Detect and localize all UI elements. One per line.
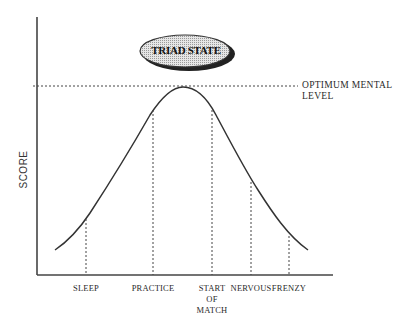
x-label-practice: PRACTICE (128, 283, 178, 294)
optimum-mental-level-label: OPTIMUM MENTAL LEVEL (302, 80, 392, 102)
optimum-label-line1: OPTIMUM MENTAL (302, 80, 392, 91)
start-line2: OF (192, 294, 232, 305)
y-axis-label: SCORE (18, 150, 29, 190)
start-line1: START (192, 283, 232, 294)
x-label-frenzy: FRENZY (268, 283, 310, 294)
performance-curve (55, 87, 308, 250)
start-line3: MATCH (192, 305, 232, 316)
x-label-sleep: SLEEP (66, 283, 106, 294)
x-label-start-of-match: START OF MATCH (192, 283, 232, 316)
triad-state-label: TRIAD STATE (140, 44, 232, 56)
optimum-label-line2: LEVEL (302, 91, 392, 102)
